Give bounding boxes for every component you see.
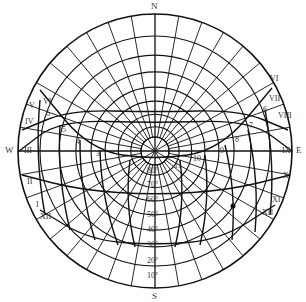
west-month-xii: XII: [40, 213, 51, 221]
altitude-label-70: 70°: [147, 181, 158, 189]
east-month-xii: XII: [262, 209, 273, 217]
east-month-x: X: [283, 172, 289, 180]
east-hour-8: 8: [235, 136, 239, 144]
east-month-viii: VIII: [278, 112, 292, 120]
altitude-label-10: 10°: [147, 272, 158, 280]
altitude-label-30: 30°: [147, 241, 158, 249]
west-label: W: [5, 146, 14, 155]
east-hour-6: 6: [263, 106, 267, 114]
east-month-xi: XI: [272, 196, 280, 204]
west-month-iii: III: [24, 147, 32, 155]
west-month-v: V: [29, 102, 35, 110]
altitude-label-80: 80°: [147, 167, 158, 175]
west-month-vi: VI: [43, 98, 51, 106]
west-month-iv: IV: [25, 118, 33, 126]
east-month-vi: VI: [270, 75, 278, 83]
west-month-ii: II: [27, 178, 32, 186]
east-month-vii: VII: [269, 95, 280, 103]
east-hour-11: 11: [174, 162, 182, 170]
east-hour-7: 7: [249, 122, 253, 130]
altitude-label-60: 60°: [147, 196, 158, 204]
altitude-label-20: 20°: [147, 257, 158, 265]
west-hour-3: 3: [96, 150, 100, 158]
altitude-label-50: 50°: [147, 211, 158, 219]
east-month-ix: IX: [282, 147, 290, 155]
east-hour-10: 10: [193, 155, 201, 163]
altitude-label-40: 40°: [147, 226, 158, 234]
west-hour-6: 6: [46, 110, 50, 118]
north-label: N: [151, 2, 158, 11]
west-month-i: I: [36, 201, 39, 209]
west-hour-5: 5: [62, 126, 66, 134]
south-label: S: [152, 292, 157, 301]
west-hour-4: 4: [76, 138, 80, 146]
east-hour-9: 9: [220, 147, 224, 155]
east-label: E: [296, 146, 302, 155]
sun-position-marker: [231, 204, 236, 209]
